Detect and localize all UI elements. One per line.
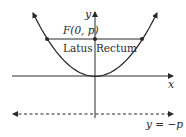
y-axis-label: y — [84, 8, 92, 21]
latus-rectum-label: Latus Rectum — [63, 42, 137, 54]
directrix-label: y = −p — [145, 118, 183, 130]
parabola-diagram: y F(0, p) Latus Rectum x y = −p — [0, 0, 186, 137]
focus-label: F(0, p) — [62, 24, 99, 36]
focus-point — [93, 37, 97, 41]
latus-rectum-right-endpoint — [140, 37, 144, 41]
x-axis-label: x — [168, 78, 175, 91]
latus-rectum-left-endpoint — [45, 37, 49, 41]
